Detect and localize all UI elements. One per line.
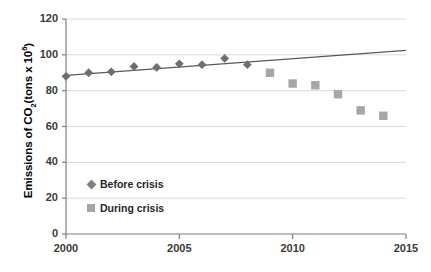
data-point-square (379, 112, 387, 120)
data-point-square (334, 90, 342, 98)
data-point-square (288, 79, 296, 87)
plot-area (0, 0, 431, 272)
diamond-marker-icon (85, 178, 97, 190)
data-point-diamond (220, 54, 229, 63)
legend-label-during-crisis: During crisis (100, 202, 164, 214)
trendline (66, 50, 406, 75)
data-point-square (266, 69, 274, 77)
data-point-diamond (84, 68, 93, 77)
data-point-diamond (62, 72, 71, 81)
data-point-diamond (107, 67, 116, 76)
legend-item-before-crisis: Before crisis (85, 178, 164, 190)
x-axis-ticks (66, 234, 406, 239)
gridlines (66, 19, 406, 198)
legend-label-before-crisis: Before crisis (100, 178, 164, 190)
data-point-diamond (198, 60, 207, 69)
data-point-diamond (152, 63, 161, 72)
square-marker-icon (85, 202, 97, 214)
data-point-square (356, 106, 364, 114)
trendline-path (66, 50, 406, 75)
co2-emissions-chart: Emissions of CO2(tons x 106) 02040608010… (0, 0, 431, 272)
data-point-square (311, 81, 319, 89)
legend-item-during-crisis: During crisis (85, 202, 164, 214)
